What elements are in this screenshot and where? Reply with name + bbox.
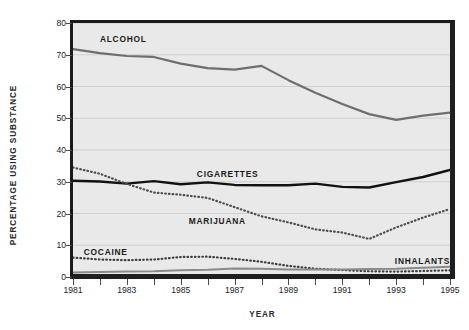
series-label-cocaine: Cocaine: [84, 247, 128, 257]
plot-canvas: [73, 23, 450, 277]
series-label-alcohol: Alcohol: [100, 34, 147, 44]
series-label-cigarettes: Cigarettes: [197, 169, 258, 179]
x-axis-title: Year: [70, 310, 455, 319]
y-axis-title: Percentage Using Substance: [0, 0, 26, 330]
y-tick-mark: [66, 245, 72, 246]
series-line-marijuana: [73, 167, 450, 238]
x-tick-label: 1991: [322, 285, 362, 295]
y-tick-label: 70: [26, 50, 66, 60]
x-tick-mark: [423, 279, 424, 285]
y-tick-label: 50: [26, 113, 66, 123]
series-label-inhalants: Inhalants: [395, 256, 450, 266]
x-tick-label: 1987: [215, 285, 255, 295]
x-tick-mark: [315, 279, 316, 285]
x-tick-mark: [154, 279, 155, 285]
y-tick-label: 80: [26, 18, 66, 28]
x-tick-label: 1989: [268, 285, 308, 295]
y-tick-mark: [66, 23, 72, 24]
y-tick-label: 30: [26, 177, 66, 187]
x-tick-mark: [262, 279, 263, 285]
y-tick-label: 10: [26, 240, 66, 250]
y-tick-label: 20: [26, 209, 66, 219]
x-tick-label: 1983: [107, 285, 147, 295]
x-tick-label: 1995: [430, 285, 469, 295]
y-tick-label: 0: [26, 272, 66, 282]
x-tick-mark: [100, 279, 101, 285]
x-tick-mark: [369, 279, 370, 285]
x-tick-label: 1993: [376, 285, 416, 295]
y-tick-mark: [66, 214, 72, 215]
y-tick-mark: [66, 87, 72, 88]
y-tick-mark: [66, 150, 72, 151]
series-label-marijuana: Marijuana: [189, 216, 246, 226]
y-tick-mark: [66, 277, 72, 278]
x-tick-label: 1985: [161, 285, 201, 295]
y-tick-mark: [66, 118, 72, 119]
y-tick-label: 60: [26, 82, 66, 92]
y-tick-mark: [66, 55, 72, 56]
y-tick-label: 40: [26, 145, 66, 155]
y-tick-mark: [66, 182, 72, 183]
x-tick-label: 1981: [53, 285, 93, 295]
chart-figure: Percentage Using Substance 0102030405060…: [0, 0, 469, 330]
x-tick-mark: [208, 279, 209, 285]
series-line-alcohol: [73, 49, 450, 120]
